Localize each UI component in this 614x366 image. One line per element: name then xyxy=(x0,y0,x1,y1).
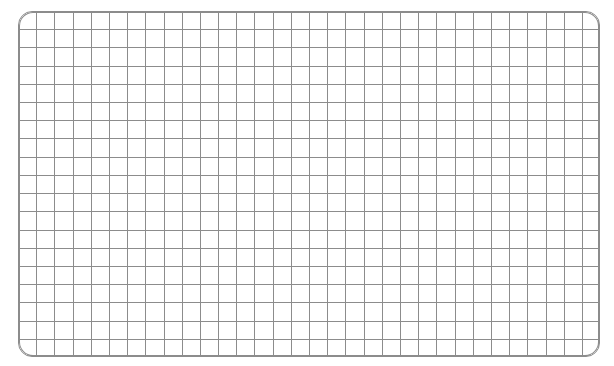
panel-border xyxy=(19,12,599,356)
screen-canvas xyxy=(0,0,614,366)
grid-lines xyxy=(19,12,599,356)
grid-panel[interactable] xyxy=(18,11,600,357)
